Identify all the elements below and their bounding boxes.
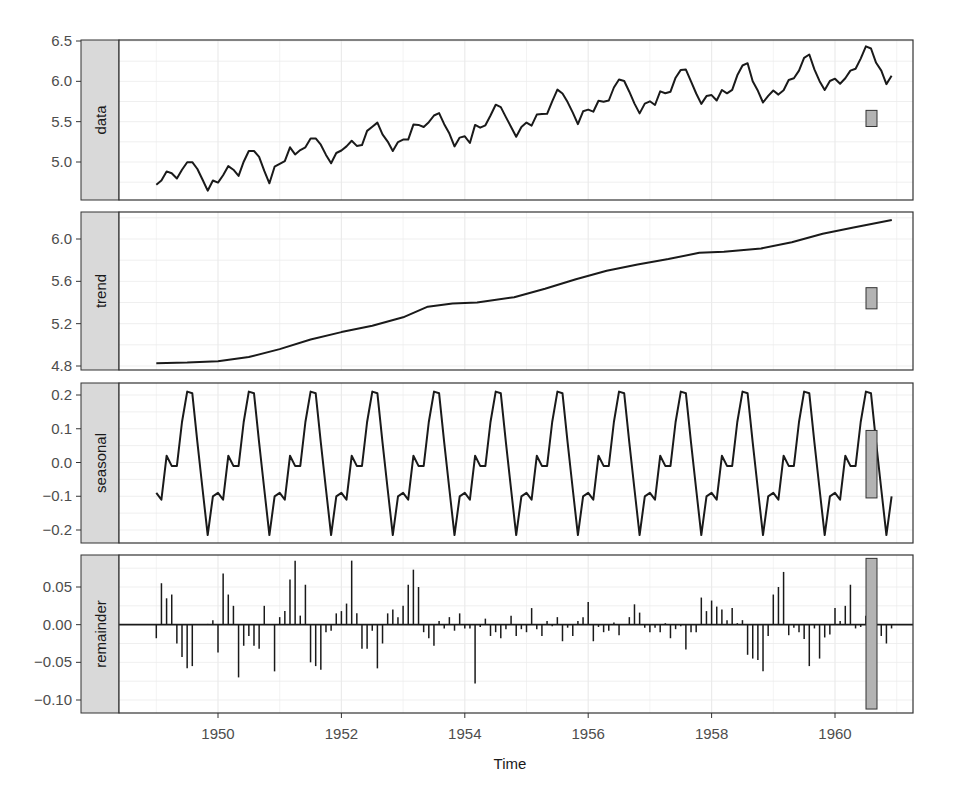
y-axis-data: 5.05.56.06.5 [51, 32, 81, 170]
y-tick-label: 5.0 [51, 153, 72, 170]
y-tick-label: 5.2 [51, 315, 72, 332]
x-axis: 195019521954195619581960 [201, 713, 851, 742]
strip-label-data: data [92, 105, 109, 135]
y-tick-label: 0.1 [51, 420, 72, 437]
x-axis-title: Time [494, 755, 527, 772]
y-tick-label: 6.5 [51, 32, 72, 49]
y-axis-trend: 4.85.25.66.0 [51, 230, 81, 374]
scale-bar-remainder [866, 558, 877, 709]
y-tick-label: −0.10 [34, 691, 72, 708]
x-tick-label: 1960 [818, 725, 851, 742]
panel-data: 5.05.56.06.5 [51, 32, 913, 200]
strip-label-trend: trend [92, 274, 109, 308]
scale-bar-data [866, 110, 877, 126]
x-tick-label: 1950 [201, 725, 234, 742]
strip-label-remainder: remainder [92, 600, 109, 668]
y-tick-label: 5.6 [51, 272, 72, 289]
x-tick-label: 1956 [572, 725, 605, 742]
y-tick-label: 0.2 [51, 386, 72, 403]
panel-seasonal: −0.2−0.10.00.10.2 [42, 383, 913, 543]
y-tick-label: 0.05 [43, 578, 72, 595]
x-tick-label: 1954 [448, 725, 481, 742]
y-tick-label: 5.5 [51, 113, 72, 130]
plot-area-trend [119, 212, 913, 370]
x-tick-label: 1952 [325, 725, 358, 742]
scale-bar-seasonal [866, 430, 877, 498]
y-tick-label: −0.2 [42, 521, 72, 538]
y-tick-label: 6.0 [51, 72, 72, 89]
stl-decomposition-chart: 5.05.56.06.5 4.85.25.66.0 −0.2−0.10.00.1… [0, 0, 954, 801]
y-tick-label: 6.0 [51, 230, 72, 247]
strip-label-seasonal: seasonal [92, 433, 109, 493]
y-tick-label: 0.0 [51, 454, 72, 471]
y-axis-seasonal: −0.2−0.10.00.10.2 [42, 386, 81, 538]
scale-bar-trend [866, 288, 877, 309]
y-tick-label: −0.1 [42, 487, 72, 504]
panel-remainder: −0.10−0.050.000.05 [34, 555, 913, 713]
x-tick-label: 1958 [695, 725, 728, 742]
panel-trend: 4.85.25.66.0 [51, 212, 913, 374]
y-axis-remainder: −0.10−0.050.000.05 [34, 578, 81, 708]
y-tick-label: −0.05 [34, 653, 72, 670]
y-tick-label: 4.8 [51, 357, 72, 374]
y-tick-label: 0.00 [43, 616, 72, 633]
